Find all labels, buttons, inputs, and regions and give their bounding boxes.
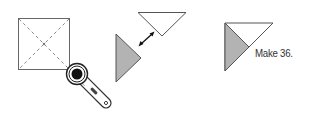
- double-arrow-icon: [139, 32, 155, 47]
- square-block: [19, 19, 70, 70]
- quilt-instruction-diagram: [0, 0, 313, 118]
- make-count-caption: Make 36.: [255, 47, 293, 59]
- gray-triangle: [116, 34, 141, 82]
- rotary-cutter-icon: [67, 64, 114, 111]
- white-triangle: [138, 13, 186, 37]
